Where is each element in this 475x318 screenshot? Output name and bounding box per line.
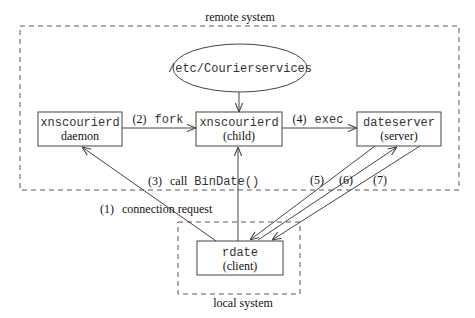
connection-request-arrow <box>82 147 216 241</box>
child-name: xnscourierd <box>199 116 278 130</box>
local-system-label: local system <box>213 296 273 310</box>
server-name: dateserver <box>363 116 435 130</box>
label-7: (7) <box>373 173 387 187</box>
label-5: (5) <box>310 173 324 187</box>
config-file-label: /etc/Courierservices <box>168 62 312 76</box>
arrow-7 <box>272 146 420 240</box>
arrow-6 <box>258 147 397 240</box>
connection-request-label: (1) connection request <box>100 199 213 216</box>
call-bindate-label: (3) call BinDate() <box>148 171 259 189</box>
diagram-canvas: remote system local system /etc/Couriers… <box>0 0 475 318</box>
client-name: rdate <box>222 246 258 260</box>
fork-label: (2) fork <box>133 109 184 127</box>
server-role: (server) <box>380 129 417 143</box>
daemon-node: xnscourierd daemon <box>38 112 122 146</box>
config-file-node: /etc/Courierservices <box>168 44 312 92</box>
remote-system-label: remote system <box>205 10 275 24</box>
exec-label: (4) exec <box>293 109 344 127</box>
client-role: (client) <box>223 259 258 273</box>
daemon-role: daemon <box>61 129 99 143</box>
label-6: (6) <box>339 173 353 187</box>
arrow-5 <box>250 146 375 240</box>
child-role: (child) <box>223 129 255 143</box>
daemon-name: xnscourierd <box>40 116 119 130</box>
server-node: dateserver (server) <box>357 112 441 146</box>
child-node: xnscourierd (child) <box>196 112 282 146</box>
client-node: rdate (client) <box>197 241 283 275</box>
